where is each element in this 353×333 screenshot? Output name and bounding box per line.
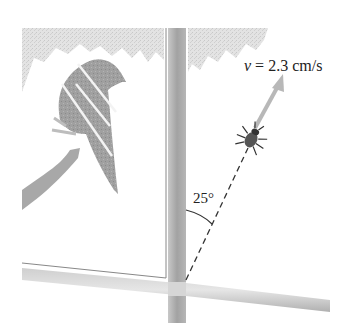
- frame-vertical: [168, 28, 186, 323]
- figure-canvas: [0, 0, 353, 333]
- window-figure: v = 2.3 cm/s 25°: [0, 0, 353, 333]
- bug-path-dashed: [186, 148, 248, 280]
- bug: [233, 117, 273, 157]
- velocity-arrow: [255, 74, 284, 128]
- velocity-label: v = 2.3 cm/s: [244, 57, 322, 75]
- angle-label: 25°: [193, 190, 214, 207]
- angle-arc: [186, 210, 212, 224]
- velocity-value: = 2.3 cm/s: [251, 57, 322, 74]
- branch: [22, 148, 80, 210]
